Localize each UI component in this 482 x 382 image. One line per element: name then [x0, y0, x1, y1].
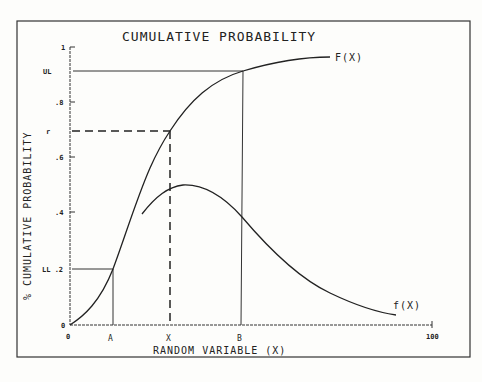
x-tick-0: 0 — [66, 333, 70, 341]
y-ticks — [70, 47, 75, 212]
pdf-label: f(X) — [393, 300, 421, 311]
y-axis-label: % CUMULATIVE PROBABILITY — [22, 132, 33, 301]
x-axis-label: RANDOM VARIABLE (X) — [153, 345, 286, 356]
y-tick-0: 0 — [61, 322, 65, 330]
cdf-curve — [70, 57, 330, 325]
y-tick-08: .8 — [55, 99, 63, 107]
x-tick-100: 100 — [426, 333, 439, 341]
y-tick-06: .6 — [55, 154, 63, 162]
r-guide — [72, 131, 170, 325]
y-tick-04: .4 — [55, 209, 63, 217]
y-tick-ll: LL .2 — [42, 266, 63, 274]
x-tick-x: X — [166, 334, 172, 343]
ll-guide — [72, 269, 113, 325]
chart-title: CUMULATIVE PROBABILITY — [122, 29, 316, 44]
ul-guide — [73, 71, 243, 325]
y-tick-1: 1 — [61, 44, 65, 52]
cdf-label: F(X) — [335, 52, 363, 63]
x-tick-a: A — [108, 334, 114, 343]
x-tick-b: B — [237, 334, 243, 343]
y-tick-ul: UL — [43, 68, 51, 76]
chart-canvas: CUMULATIVE PROBABILITY % CUMULATIVE PROB… — [0, 0, 482, 382]
pdf-curve — [142, 185, 396, 315]
y-tick-r: r — [46, 128, 50, 136]
